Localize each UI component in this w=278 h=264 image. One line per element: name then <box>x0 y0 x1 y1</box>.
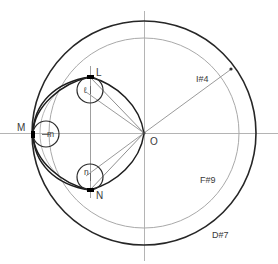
radial-line-to-I4 <box>144 70 230 133</box>
radial-line-to-l-center <box>86 92 144 133</box>
point-marker-O <box>142 131 145 134</box>
center-point-label-O: O <box>150 136 158 147</box>
point-label-N: N <box>96 190 103 201</box>
point-marker-L <box>87 75 94 79</box>
radial-line-to-L <box>90 77 144 133</box>
tag-label-I4: I#4 <box>196 74 209 84</box>
geometry-diagram: L M N O ℓ m n I#4 F#9 D#7 <box>0 0 278 264</box>
radial-line-to-N <box>90 133 144 190</box>
point-marker-M <box>31 131 35 138</box>
point-marker-N <box>87 188 94 192</box>
small-circle-label-l: ℓ <box>83 85 87 95</box>
radial-line-to-n-center <box>86 133 144 176</box>
point-label-M: M <box>17 122 25 133</box>
guide-arc-upper <box>40 77 90 133</box>
figure-page: ランドを画像描画で黒く塗りつぶす1-1り描く描画例え方 <box>0 0 278 264</box>
tag-label-F9: F#9 <box>200 175 216 185</box>
small-circle-label-m: m <box>47 129 54 139</box>
guide-arc-lower <box>40 133 90 190</box>
tag-label-D7: D#7 <box>212 230 229 240</box>
point-marker-I4 <box>229 67 232 70</box>
point-label-L: L <box>96 67 102 78</box>
small-circle-label-n: n <box>84 167 89 177</box>
